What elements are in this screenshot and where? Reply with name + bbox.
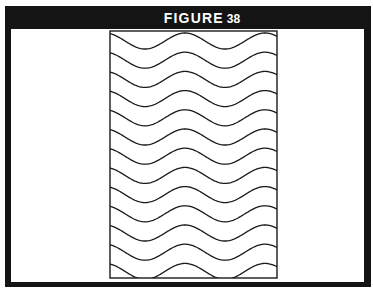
wave-line xyxy=(108,263,279,279)
wave-line xyxy=(108,129,279,145)
wave-line xyxy=(108,110,279,126)
wave-line xyxy=(108,91,279,107)
wave-line xyxy=(108,206,279,222)
wave-line xyxy=(108,167,279,183)
wave-lines-group xyxy=(108,33,279,279)
wavy-lines-diagram xyxy=(0,0,373,289)
wave-line xyxy=(108,244,279,260)
wave-line xyxy=(108,33,279,49)
wave-line xyxy=(108,225,279,241)
wave-line xyxy=(108,187,279,203)
pattern-rectangle xyxy=(110,31,277,278)
wave-line xyxy=(108,52,279,68)
wave-line xyxy=(108,71,279,87)
wave-line xyxy=(108,148,279,164)
